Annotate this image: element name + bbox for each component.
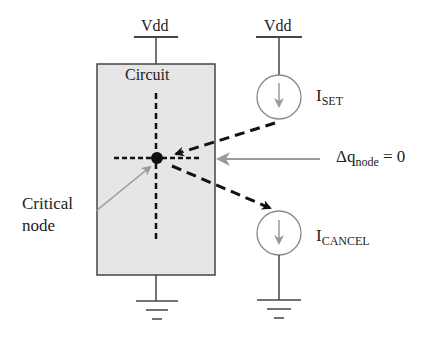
vdd-right-label: Vdd	[264, 17, 292, 35]
icancel-sub: CANCEL	[322, 234, 370, 248]
vdd-left-label: Vdd	[141, 17, 169, 35]
charge-delta: Δq	[336, 147, 355, 166]
charge-sub: node	[355, 155, 378, 169]
critical-node-dot	[151, 152, 163, 164]
circuit-label: Circuit	[125, 66, 169, 84]
ground-right-icon	[257, 300, 301, 318]
charge-eq: = 0	[379, 147, 406, 166]
critical-node-label-line2: node	[22, 216, 55, 236]
iset-label: ISET	[316, 86, 343, 109]
circuit-diagram	[0, 0, 448, 343]
vdd-right-supply	[256, 37, 302, 75]
critical-node-label-line1: Critical	[22, 194, 73, 214]
icancel-label: ICANCEL	[316, 226, 370, 249]
icancel-current-source-icon	[257, 211, 301, 300]
iset-current-source-icon	[257, 75, 301, 119]
iset-sub: SET	[322, 94, 343, 108]
vdd-left-supply	[134, 37, 178, 64]
ground-left-icon	[136, 275, 178, 319]
charge-condition-label: Δqnode = 0	[336, 147, 405, 170]
